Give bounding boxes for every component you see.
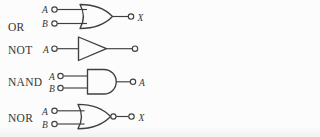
input-terminal xyxy=(58,73,63,78)
input-terminal xyxy=(52,121,57,126)
input-terminal xyxy=(58,85,63,90)
row-or: OR A B X xyxy=(8,5,145,34)
input-label-a: A xyxy=(41,5,48,15)
output-terminal xyxy=(132,46,137,51)
input-label-a: A xyxy=(42,45,49,55)
logic-gates-diagram: OR A B X NOT A NAND A B A xyxy=(0,0,153,137)
input-label-b: B xyxy=(42,120,48,130)
output-label-x: X xyxy=(138,113,146,123)
output-terminal xyxy=(130,79,135,84)
and-gate-symbol xyxy=(88,70,117,95)
output-terminal xyxy=(129,114,134,119)
input-label-b: B xyxy=(42,19,48,29)
row-nand: NAND A B A xyxy=(8,70,145,95)
or-gate-symbol xyxy=(80,5,113,29)
not-gate-symbol xyxy=(79,37,107,61)
output-terminal xyxy=(128,14,133,19)
nor-gate-symbol xyxy=(78,104,111,128)
input-label-b: B xyxy=(49,84,55,94)
input-terminal xyxy=(52,46,57,51)
output-label-a: A xyxy=(138,78,145,88)
inversion-bubble xyxy=(111,114,116,119)
gate-name-nor: NOR xyxy=(8,112,33,124)
input-terminal xyxy=(52,21,57,26)
input-label-a: A xyxy=(41,107,48,117)
row-nor: NOR A B X xyxy=(8,104,146,130)
gate-name-nand: NAND xyxy=(8,76,42,88)
input-terminal xyxy=(52,108,57,113)
output-label-x: X xyxy=(137,13,145,23)
row-not: NOT A xyxy=(8,37,138,61)
input-terminal xyxy=(52,7,57,12)
gate-name-not: NOT xyxy=(8,44,33,56)
gate-name-or: OR xyxy=(8,21,25,33)
input-label-a: A xyxy=(48,72,55,82)
